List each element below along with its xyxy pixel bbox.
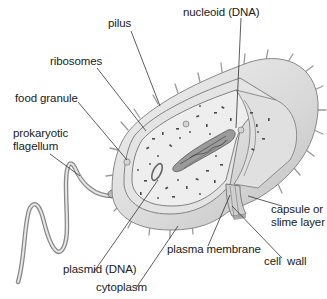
label-pilus: pilus (108, 17, 131, 30)
label-cell-wall: cell wall (264, 255, 306, 268)
food-granule (238, 127, 244, 133)
label-ribosomes: ribosomes (50, 55, 102, 68)
label-flagellum-line1: prokaryotic (13, 127, 68, 140)
food-granule (183, 121, 189, 127)
label-plasmid: plasmid (DNA) (63, 263, 136, 276)
label-nucleoid: nucleoid (DNA) (183, 6, 260, 19)
label-flagellum-line2: flagellum (13, 140, 58, 153)
label-plasma-membrane: plasma membrane (167, 243, 261, 256)
label-capsule-line2: slime layer (271, 216, 325, 229)
label-cytoplasm: cytoplasm (96, 281, 147, 294)
label-capsule-line1: capsule or (271, 203, 323, 216)
label-food-granule: food granule (15, 92, 78, 105)
